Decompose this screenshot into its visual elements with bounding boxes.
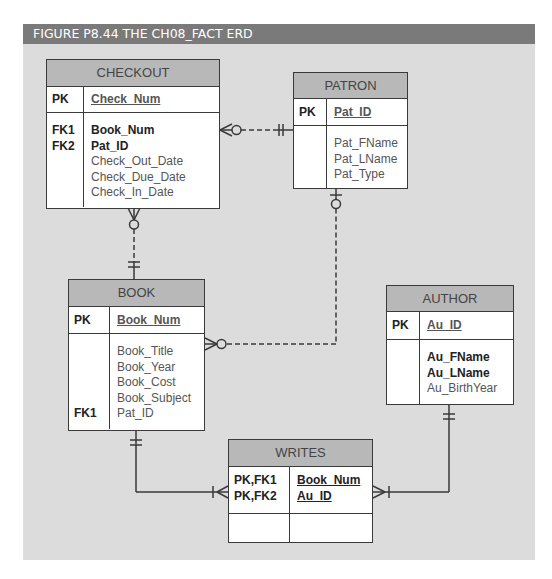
entity-book-header: BOOK (69, 280, 204, 307)
entity-checkout[interactable]: CHECKOUT PK Check_Num FK1 FK2 Book_Num P… (46, 59, 220, 209)
book-fk1-label: FK1 (74, 406, 109, 422)
patron-attr-type: Pat_Type (334, 167, 398, 183)
entity-author-header: AUTHOR (387, 286, 513, 312)
writes-attr-au-id: Au_ID (297, 489, 360, 505)
author-attributes: Au_FName Au_LName Au_BirthYear (420, 340, 497, 404)
book-pk-label: PK (69, 307, 110, 333)
rel-author-writes (373, 404, 455, 498)
writes-pk-attributes: Book_Num Au_ID (290, 467, 360, 513)
patron-attributes: Pat_FName Pat_LName Pat_Type (327, 126, 398, 188)
entity-patron-header: PATRON (294, 73, 407, 99)
checkout-attr-book-num: Book_Num (91, 123, 186, 139)
checkout-attr-pat-id: Pat_ID (91, 139, 186, 155)
checkout-attr-check-out-date: Check_Out_Date (91, 154, 186, 170)
book-attributes: Book_Title Book_Year Book_Cost Book_Subj… (110, 334, 191, 429)
author-key-column (387, 340, 420, 404)
checkout-key-column: FK1 FK2 (47, 113, 84, 207)
entity-book[interactable]: BOOK PK Book_Num FK1 Book_Title Book_Yea… (68, 279, 205, 431)
rel-book-checkout (128, 208, 140, 279)
patron-pk-label: PK (294, 99, 327, 125)
patron-attr-fname: Pat_FName (334, 136, 398, 152)
book-pk-attr: Book_Num (110, 307, 180, 333)
writes-pkfk1-label: PK,FK1 (234, 473, 289, 489)
entity-writes-header: WRITES (229, 440, 372, 467)
author-attr-fname: Au_FName (427, 350, 497, 366)
author-pk-label: PK (387, 312, 420, 339)
writes-empty-attr-cell (290, 514, 297, 542)
entity-writes[interactable]: WRITES PK,FK1 PK,FK2 Book_Num Au_ID (228, 439, 373, 543)
writes-pkfk2-label: PK,FK2 (234, 489, 289, 505)
book-attr-subject: Book_Subject (117, 391, 191, 407)
checkout-attributes: Book_Num Pat_ID Check_Out_Date Check_Due… (84, 113, 186, 207)
checkout-fk1-label: FK1 (52, 123, 83, 139)
entity-patron[interactable]: PATRON PK Pat_ID Pat_FName Pat_LName Pat… (293, 72, 408, 189)
writes-empty-key-cell (229, 514, 290, 542)
patron-attr-lname: Pat_LName (334, 152, 398, 168)
book-attr-year: Book_Year (117, 360, 191, 376)
entity-checkout-header: CHECKOUT (47, 60, 219, 87)
checkout-pk-attr: Check_Num (84, 87, 160, 112)
rel-patron-checkout (220, 124, 293, 136)
checkout-pk-label: PK (47, 87, 84, 112)
patron-key-column (294, 126, 327, 188)
book-attr-cost: Book_Cost (117, 375, 191, 391)
rel-book-writes (130, 430, 228, 498)
patron-pk-attr: Pat_ID (327, 99, 371, 125)
author-attr-birthyear: Au_BirthYear (427, 381, 497, 397)
author-attr-lname: Au_LName (427, 366, 497, 382)
writes-attr-book-num: Book_Num (297, 473, 360, 489)
book-key-column: FK1 (69, 334, 110, 429)
checkout-fk2-label: FK2 (52, 139, 83, 155)
entity-author[interactable]: AUTHOR PK Au_ID Au_FName Au_LName Au_Bir… (386, 285, 514, 405)
book-attr-title: Book_Title (117, 344, 191, 360)
writes-key-column: PK,FK1 PK,FK2 (229, 467, 290, 513)
checkout-attr-check-due-date: Check_Due_Date (91, 170, 186, 186)
rel-patron-book (205, 189, 342, 350)
checkout-attr-check-in-date: Check_In_Date (91, 185, 186, 201)
book-attr-pat-id: Pat_ID (117, 406, 191, 422)
author-pk-attr: Au_ID (420, 312, 462, 339)
